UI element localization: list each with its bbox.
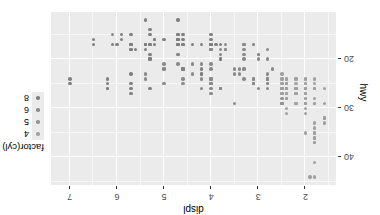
legend-key-swatch: [32, 104, 44, 116]
scatter-point: [219, 53, 222, 56]
scatter-point: [304, 102, 307, 105]
scatter-point: [280, 102, 283, 105]
scatter-point: [219, 87, 222, 90]
scatter-point: [242, 48, 245, 51]
scatter-point: [304, 87, 307, 90]
scatter-point: [177, 43, 180, 46]
legend-item[interactable]: 6: [0, 104, 44, 116]
gridline-x-minor: [140, 12, 141, 185]
scatter-point: [209, 43, 212, 46]
x-axis-tick-label: 3: [256, 192, 261, 202]
y-axis-tick: [338, 156, 341, 157]
scatter-point: [323, 87, 326, 90]
x-axis-tick-label: 5: [162, 192, 167, 202]
scatter-point: [266, 57, 269, 60]
ggplot-figure: displ hwy 234567203040 factor(cyl) 4568: [0, 0, 380, 215]
legend-key-dot-icon: [36, 132, 39, 135]
scatter-point: [304, 77, 307, 80]
scatter-point: [224, 43, 227, 46]
scatter-point: [191, 72, 194, 75]
y-axis-tick: [338, 58, 341, 59]
scatter-point: [153, 43, 156, 46]
scatter-point: [181, 77, 184, 80]
scatter-point: [285, 112, 288, 115]
scatter-point: [285, 82, 288, 85]
legend-item-label: 5: [24, 117, 29, 127]
gridline-y-minor: [51, 132, 336, 133]
scatter-point: [233, 72, 236, 75]
scatter-point: [294, 82, 297, 85]
x-axis-tick-label: 2: [303, 192, 308, 202]
scatter-point: [313, 77, 316, 80]
legend-item[interactable]: 5: [0, 116, 44, 128]
scatter-point: [266, 77, 269, 80]
x-axis-tick: [304, 186, 305, 189]
scatter-point: [209, 87, 212, 90]
scatter-point: [148, 33, 151, 36]
scatter-point: [111, 33, 114, 36]
scatter-point: [144, 77, 147, 80]
scatter-point: [181, 82, 184, 85]
scatter-point: [280, 87, 283, 90]
y-axis-tick-label: 40: [344, 152, 380, 162]
scatter-point: [148, 53, 151, 56]
scatter-point: [285, 107, 288, 110]
legend-item-label: 8: [24, 93, 29, 103]
scatter-point: [266, 87, 269, 90]
legend-items: 4568: [0, 92, 44, 140]
scatter-point: [280, 82, 283, 85]
legend-item[interactable]: 8: [0, 92, 44, 104]
scatter-point: [294, 92, 297, 95]
scatter-point: [129, 33, 132, 36]
scatter-point: [323, 121, 326, 124]
scatter-point: [252, 43, 255, 46]
scatter-point: [181, 38, 184, 41]
scatter-point: [257, 87, 260, 90]
legend-key-swatch: [32, 116, 44, 128]
x-axis-tick: [257, 186, 258, 189]
scatter-point: [181, 43, 184, 46]
scatter-point: [181, 33, 184, 36]
legend-key-dot-icon: [36, 96, 39, 99]
scatter-point: [252, 77, 255, 80]
scatter-point: [252, 82, 255, 85]
legend-key-swatch: [32, 128, 44, 140]
scatter-point: [200, 72, 203, 75]
screenshot-root: displ hwy 234567203040 factor(cyl) 4568: [0, 0, 380, 215]
legend-item[interactable]: 4: [0, 128, 44, 140]
scatter-point: [129, 82, 132, 85]
scatter-point: [238, 67, 241, 70]
scatter-point: [209, 67, 212, 70]
scatter-point: [214, 43, 217, 46]
scatter-point: [144, 43, 147, 46]
gridline-y-minor: [51, 83, 336, 84]
scatter-point: [242, 67, 245, 70]
scatter-point: [285, 77, 288, 80]
scatter-point: [92, 38, 95, 41]
scatter-point: [148, 87, 151, 90]
scatter-point: [144, 72, 147, 75]
gridline-y-major: [51, 107, 336, 108]
scatter-point: [280, 77, 283, 80]
scatter-point: [266, 82, 269, 85]
scatter-point: [294, 102, 297, 105]
scatter-point: [313, 141, 316, 144]
legend-item-label: 6: [24, 105, 29, 115]
scatter-point: [280, 97, 283, 100]
scatter-point: [120, 33, 123, 36]
scatter-point: [285, 97, 288, 100]
scatter-point: [106, 82, 109, 85]
gridline-x-minor: [234, 12, 235, 185]
scatter-point: [148, 57, 151, 60]
scatter-point: [238, 72, 241, 75]
legend-key-swatch: [32, 92, 44, 104]
scatter-point: [242, 57, 245, 60]
scatter-point: [129, 43, 132, 46]
scatter-point: [162, 82, 165, 85]
scatter-point: [209, 92, 212, 95]
scatter-point: [191, 43, 194, 46]
scatter-point: [313, 87, 316, 90]
x-axis-title: displ: [51, 204, 336, 215]
scatter-point: [134, 48, 137, 51]
scatter-point: [177, 62, 180, 65]
